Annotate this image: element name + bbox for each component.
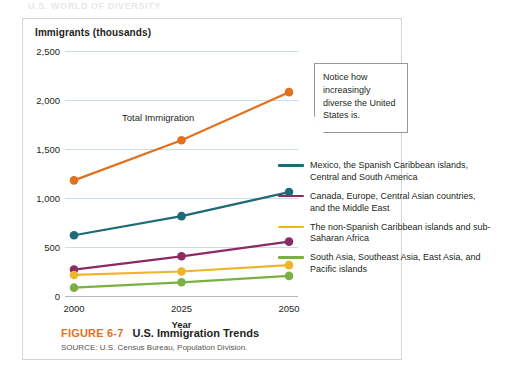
chart-legend: Mexico, the Spanish Caribbean islands, C… <box>278 160 493 283</box>
data-point-marker <box>70 231 79 240</box>
chart-plot-area: 05001,0001,5002,0002,500 200020252050 Ye… <box>65 51 298 296</box>
figure-number: FIGURE 6-7 <box>61 327 124 339</box>
figure-caption: FIGURE 6-7 U.S. Immigration Trends SOURC… <box>61 327 411 352</box>
legend-item-label: The non-Spanish Caribbean islands and su… <box>310 222 493 246</box>
callout-body: Notice how increasingly diverse the Unit… <box>314 63 408 133</box>
data-point-marker <box>177 252 186 261</box>
y-tick-label: 1,500 <box>36 144 60 155</box>
legend-item-label: Mexico, the Spanish Caribbean islands, C… <box>310 160 493 184</box>
legend-color-swatch <box>278 164 304 167</box>
data-point-marker <box>70 283 79 292</box>
gridline <box>65 296 298 297</box>
total-immigration-annotation: Total Immigration <box>122 112 194 123</box>
legend-item-3[interactable]: South Asia, Southeast Asia, East Asia, a… <box>278 252 493 276</box>
x-tick-label: 2000 <box>63 303 84 314</box>
callout-text: Notice how increasingly diverse the Unit… <box>323 72 396 120</box>
y-tick-label: 1,000 <box>36 193 60 204</box>
y-tick-label: 0 <box>55 291 60 302</box>
data-point-marker <box>177 267 186 276</box>
y-tick-label: 500 <box>44 242 60 253</box>
data-point-marker <box>70 176 79 185</box>
figure-title: U.S. Immigration Trends <box>133 327 260 339</box>
data-point-marker <box>285 88 294 97</box>
running-head: U.S. WORLD OF DIVERSITY <box>28 1 161 11</box>
y-tick-label: 2,000 <box>36 95 60 106</box>
data-point-marker <box>177 136 186 145</box>
data-point-marker <box>177 278 186 287</box>
legend-color-swatch <box>278 226 304 229</box>
y-axis-title: Immigrants (thousands) <box>35 27 151 38</box>
x-tick-label: 2025 <box>171 303 192 314</box>
legend-item-label: South Asia, Southeast Asia, East Asia, a… <box>310 252 493 276</box>
caption-title-line: FIGURE 6-7 U.S. Immigration Trends <box>61 327 411 339</box>
x-tick-label: 2050 <box>278 303 299 314</box>
y-tick-label: 2,500 <box>36 46 60 57</box>
data-point-marker <box>70 271 79 280</box>
legend-item-0[interactable]: Mexico, the Spanish Caribbean islands, C… <box>278 160 493 184</box>
legend-color-swatch <box>278 256 304 259</box>
legend-item-1[interactable]: Canada, Europe, Central Asian countries,… <box>278 191 493 215</box>
legend-color-swatch <box>278 195 304 198</box>
data-point-marker <box>177 212 186 221</box>
callout-note: Notice how increasingly diverse the Unit… <box>314 63 408 133</box>
legend-item-label: Canada, Europe, Central Asian countries,… <box>310 191 493 215</box>
callout-pointer-icon <box>299 116 316 134</box>
legend-item-2[interactable]: The non-Spanish Caribbean islands and su… <box>278 222 493 246</box>
figure-source: SOURCE: U.S. Census Bureau, Population D… <box>61 343 411 352</box>
series-lines-layer <box>65 51 298 296</box>
